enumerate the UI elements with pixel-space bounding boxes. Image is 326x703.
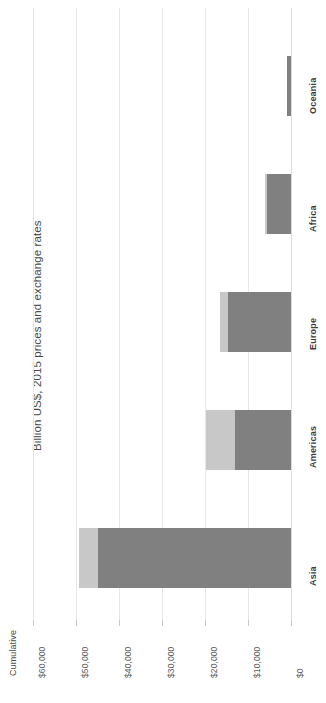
bar-segment-base[interactable]: [287, 56, 291, 116]
axis-tick-label: $10,000: [252, 647, 262, 678]
bar-row: Americas: [0, 392, 326, 488]
category-label-oceania: Oceania: [308, 78, 318, 114]
bar-row: Africa: [0, 156, 326, 252]
axis-tick: [119, 620, 120, 626]
bar-row: Oceania: [0, 38, 326, 134]
axis-tick: [291, 620, 292, 626]
bar-row: Asia: [0, 510, 326, 606]
bar-asia[interactable]: [79, 528, 291, 588]
axis-tick: [33, 620, 34, 626]
bar-oceania[interactable]: [287, 56, 291, 116]
bar-segment-cumulative[interactable]: [79, 528, 98, 588]
bar-row: Europe: [0, 274, 326, 370]
series-label-cumulative: Cumulative: [8, 630, 18, 676]
bar-segment-cumulative[interactable]: [206, 410, 235, 470]
axis-tick: [162, 620, 163, 626]
axis-tick-label: $50,000: [80, 647, 90, 678]
bar-americas[interactable]: [206, 410, 291, 470]
axis-tick: [205, 620, 206, 626]
category-label-africa: Africa: [308, 205, 318, 232]
bar-africa[interactable]: [265, 174, 291, 234]
bar-segment-cumulative[interactable]: [220, 292, 228, 352]
axis-tick-label: $20,000: [209, 647, 219, 678]
bar-europe[interactable]: [220, 292, 291, 352]
axis-tick-label: $60,000: [37, 647, 47, 678]
category-label-europe: Europe: [308, 318, 318, 350]
bar-segment-base[interactable]: [235, 410, 291, 470]
bar-segment-base[interactable]: [98, 528, 291, 588]
axis-tick-label: $0: [295, 668, 305, 678]
axis-tick-label: $30,000: [166, 647, 176, 678]
category-label-asia: Asia: [308, 566, 318, 586]
bar-segment-base[interactable]: [228, 292, 291, 352]
axis-tick-label: $40,000: [123, 647, 133, 678]
category-label-americas: Americas: [308, 426, 318, 468]
axis-tick: [76, 620, 77, 626]
bar-segment-base[interactable]: [267, 174, 291, 234]
chart-container: Billion US$, 2015 prices and exchange ra…: [0, 0, 326, 703]
value-axis: $0$10,000$20,000$30,000$40,000$50,000$60…: [0, 620, 326, 703]
axis-tick: [248, 620, 249, 626]
plot-area: AsiaAmericasEuropeAfricaOceania: [0, 8, 326, 620]
